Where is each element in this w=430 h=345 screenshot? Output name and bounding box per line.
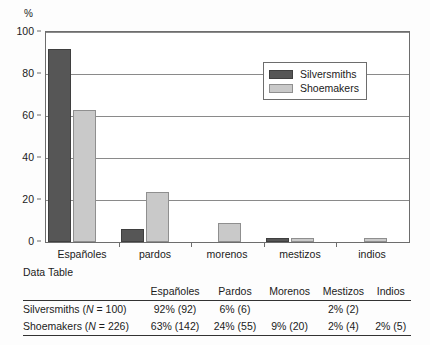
x-label-mestizos: mestizos [279, 248, 320, 260]
table-header-mestizos: Mestizos [316, 283, 370, 301]
x-axis-tick-labels: Españoles pardos morenos mestizos indios [45, 248, 410, 262]
bar-silversmiths-mestizos [266, 238, 289, 242]
rowlabel-suffix: = 226) [96, 320, 129, 332]
y-tick-mark-80 [37, 73, 41, 74]
table-cell-silversmiths-morenos [263, 301, 316, 319]
table-header-pardos: Pardos [207, 283, 263, 301]
bar-shoemakers-mestizos [291, 238, 314, 242]
legend-swatch-icon-shoemakers [269, 84, 293, 93]
table-cell-silversmiths-pardos: 6% (6) [207, 301, 263, 319]
table-row: Shoemakers (N = 226) 63% (142) 24% (55) … [23, 318, 411, 336]
bar-shoemakers-morenos [218, 223, 241, 242]
table-row: Silversmiths (N = 100) 92% (92) 6% (6) 2… [23, 301, 411, 319]
rowlabel-n-symbol: N [86, 303, 94, 315]
table-header-espanoles: Españoles [143, 283, 207, 301]
y-tick-label-100: 100 [16, 25, 34, 37]
y-tick-label-80: 80 [22, 67, 34, 79]
table-header-rowlabel [23, 283, 143, 301]
x-tick-2 [191, 243, 192, 247]
legend-item-shoemakers: Shoemakers [269, 81, 359, 95]
y-tick-mark-60 [37, 115, 41, 116]
x-tick-3 [264, 243, 265, 247]
bar-silversmiths-pardos [121, 229, 144, 242]
bar-shoemakers-pardos [146, 192, 169, 242]
y-tick-label-60: 60 [22, 109, 34, 121]
data-table: Españoles Pardos Morenos Mestizos Indios… [23, 283, 411, 336]
table-cell-silversmiths-espanoles: 92% (92) [143, 301, 207, 319]
legend-item-silversmiths: Silversmiths [269, 67, 359, 81]
rowlabel-n-symbol: N [88, 320, 96, 332]
legend-label-shoemakers: Shoemakers [300, 82, 359, 94]
table-cell-shoemakers-indios: 2% (5) [370, 318, 411, 336]
y-tick-label-20: 20 [22, 193, 34, 205]
bar-group-espanoles [46, 32, 119, 242]
table-cell-silversmiths-indios [370, 301, 411, 319]
rowlabel-suffix: = 100) [94, 303, 127, 315]
legend-swatch-icon-silversmiths [269, 70, 293, 79]
x-tick-4 [336, 243, 337, 247]
x-label-indios: indios [358, 248, 385, 260]
x-label-espanoles: Españoles [57, 248, 106, 260]
data-table-caption: Data Table [23, 266, 73, 278]
y-tick-mark-0 [37, 241, 41, 242]
bar-shoemakers-indios [364, 238, 387, 242]
y-tick-mark-20 [37, 199, 41, 200]
table-rowlabel-shoemakers: Shoemakers (N = 226) [23, 318, 143, 336]
bar-chart: % 100 80 60 40 20 0 Españoles p [0, 0, 430, 262]
x-label-morenos: morenos [207, 248, 248, 260]
y-axis-unit-label: % [24, 8, 33, 19]
table-header-indios: Indios [370, 283, 411, 301]
chart-legend: Silversmiths Shoemakers [263, 62, 367, 100]
rowlabel-prefix: Shoemakers ( [23, 320, 88, 332]
rowlabel-prefix: Silversmiths ( [23, 303, 86, 315]
y-tick-label-0: 0 [28, 235, 34, 247]
bar-shoemakers-españoles [73, 110, 96, 242]
y-tick-mark-40 [37, 157, 41, 158]
y-tick-mark-100 [37, 31, 41, 32]
y-tick-label-40: 40 [22, 151, 34, 163]
y-axis-tick-labels: 100 80 60 40 20 0 [0, 31, 41, 243]
table-cell-shoemakers-morenos: 9% (20) [263, 318, 316, 336]
table-header-morenos: Morenos [263, 283, 316, 301]
table-cell-silversmiths-mestizos: 2% (2) [316, 301, 370, 319]
x-label-pardos: pardos [139, 248, 171, 260]
bar-group-pardos [119, 32, 192, 242]
bar-group-morenos [191, 32, 264, 242]
legend-label-silversmiths: Silversmiths [300, 68, 357, 80]
bar-silversmiths-españoles [48, 49, 71, 242]
x-tick-1 [119, 243, 120, 247]
table-rowlabel-silversmiths: Silversmiths (N = 100) [23, 301, 143, 319]
table-cell-shoemakers-pardos: 24% (55) [207, 318, 263, 336]
table-header-row: Españoles Pardos Morenos Mestizos Indios [23, 283, 411, 301]
table-cell-shoemakers-mestizos: 2% (4) [316, 318, 370, 336]
table-cell-shoemakers-espanoles: 63% (142) [143, 318, 207, 336]
